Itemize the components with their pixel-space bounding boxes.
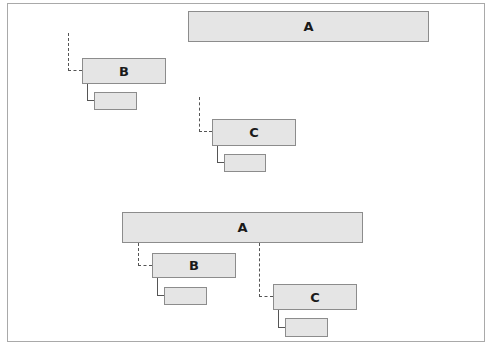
bottom-b-child-connector-h [157, 295, 164, 296]
top-node-c: C [212, 119, 296, 146]
bottom-node-b-child [164, 287, 207, 305]
top-node-c-child [224, 154, 266, 172]
top-node-b-child [94, 92, 137, 110]
bottom-node-a: A [122, 212, 363, 243]
bottom-c-dashed-connector-v [259, 243, 260, 297]
top-c-dashed-connector-h [199, 131, 212, 132]
figure-frame [7, 3, 485, 342]
bottom-b-dashed-connector-v [138, 243, 139, 266]
top-node-b: B [82, 58, 166, 84]
bottom-b-child-connector-v [157, 278, 158, 296]
bottom-node-c: C [273, 284, 357, 310]
bottom-node-b: B [152, 253, 236, 278]
top-node-a: A [188, 11, 429, 42]
top-c-child-connector-h [217, 162, 224, 163]
bottom-c-child-connector-v [278, 310, 279, 328]
top-b-child-connector-h [87, 100, 94, 101]
bottom-node-c-child [285, 318, 328, 337]
top-b-child-connector-v [87, 84, 88, 101]
top-c-child-connector-v [217, 146, 218, 163]
bottom-c-dashed-connector-h [259, 296, 273, 297]
top-b-dashed-connector-h [68, 70, 82, 71]
top-b-dashed-connector-v [68, 33, 69, 71]
bottom-c-child-connector-h [278, 327, 285, 328]
bottom-b-dashed-connector-h [138, 265, 152, 266]
top-c-dashed-connector-v [199, 97, 200, 132]
